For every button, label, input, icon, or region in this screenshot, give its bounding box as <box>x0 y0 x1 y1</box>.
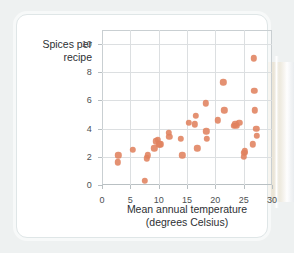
y-axis-tick <box>98 44 102 45</box>
y-axis-tick <box>98 157 102 158</box>
y-axis-tick-label: 6 <box>87 96 92 105</box>
x-axis-tick <box>215 185 216 189</box>
x-axis-tick <box>130 185 131 189</box>
y-axis-tick <box>98 72 102 73</box>
x-axis-title: Mean annual temperature (degrees Celsius… <box>102 203 272 229</box>
x-axis-tick <box>244 185 245 189</box>
x-axis-tick <box>272 185 273 189</box>
y-axis-tick-label: 0 <box>87 181 92 190</box>
y-axis-tick <box>98 129 102 130</box>
x-axis-tick <box>159 185 160 189</box>
gridline-vertical <box>130 30 131 185</box>
y-axis-tick-label: 4 <box>87 124 92 133</box>
y-axis-title-line2: recipe <box>18 51 92 64</box>
gridline-vertical <box>215 30 216 185</box>
x-axis-title-line1: Mean annual temperature <box>102 203 272 216</box>
scatter-plot-figure: Spices per recipe 0246810051015202530 Me… <box>0 0 294 253</box>
y-axis-tick-label: 2 <box>87 152 92 161</box>
y-axis-tick <box>98 100 102 101</box>
y-axis-tick-label: 10 <box>82 40 92 49</box>
gridline-vertical <box>159 30 160 185</box>
gridline-vertical <box>187 30 188 185</box>
plot-area: 0246810051015202530 <box>102 30 272 185</box>
x-axis-tick <box>102 185 103 189</box>
gridline-vertical <box>244 30 245 185</box>
x-axis-title-line2: (degrees Celsius) <box>102 216 272 229</box>
y-axis-tick-label: 8 <box>87 68 92 77</box>
x-axis-tick <box>187 185 188 189</box>
